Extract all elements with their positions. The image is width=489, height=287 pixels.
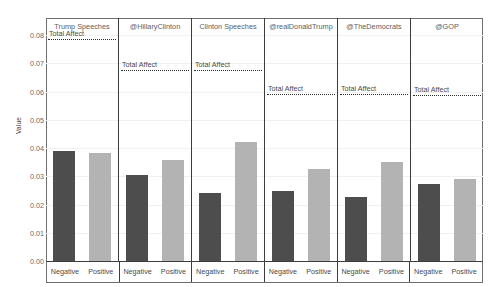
total-affect-line (267, 94, 335, 95)
x-tick-label-negative: Negative (120, 262, 156, 282)
bar-slot (82, 35, 118, 261)
x-tick-label-negative: Negative (338, 262, 374, 282)
total-affect-label: Total Affect (341, 84, 376, 94)
x-tick-label-negative: Negative (192, 262, 228, 282)
total-affect-line (194, 70, 262, 71)
panel-title: @TheDemocrats (338, 18, 410, 36)
x-tick-label-positive: Positive (374, 262, 410, 282)
panel-title: @realDonaldTrump (265, 18, 337, 36)
x-axis-panel: NegativePositive (410, 262, 482, 282)
panel-plot-body: Total Affect (411, 35, 483, 261)
y-tick-label: 0.06 (10, 87, 44, 96)
bar-group (411, 35, 483, 261)
chart-container: Value 0.080.070.060.050.040.030.020.010.… (0, 0, 489, 287)
bar-positive[interactable] (89, 153, 111, 261)
bar-slot (374, 35, 410, 261)
y-tick-label: 0.05 (10, 115, 44, 124)
bar-negative[interactable] (272, 191, 294, 261)
y-tick-label: 0.02 (10, 200, 44, 209)
total-affect-label: Total Affect (268, 84, 303, 94)
panel-plot-body: Total Affect (119, 35, 191, 261)
y-tick-label: 0.00 (10, 257, 44, 266)
bar-group (338, 35, 410, 261)
total-affect-line (340, 94, 408, 95)
total-affect-label: Total Affect (49, 29, 84, 39)
x-axis-strip: NegativePositiveNegativePositiveNegative… (46, 261, 483, 283)
total-affect-line (413, 95, 481, 96)
bar-positive[interactable] (454, 179, 476, 261)
y-tick-label: 0.03 (10, 172, 44, 181)
total-affect-line (48, 39, 116, 40)
bar-negative[interactable] (199, 193, 221, 261)
y-tick-label: 0.01 (10, 228, 44, 237)
total-affect-label: Total Affect (122, 60, 157, 70)
bar-slot (447, 35, 483, 261)
bar-positive[interactable] (381, 162, 403, 261)
x-tick-label-positive: Positive (301, 262, 337, 282)
total-affect-line (121, 70, 189, 71)
bar-positive[interactable] (235, 142, 257, 261)
x-tick-label-positive: Positive (83, 262, 119, 282)
chart-panel: @realDonaldTrumpTotal Affect (265, 18, 338, 261)
bar-group (265, 35, 337, 261)
bar-slot (46, 35, 82, 261)
x-axis-panel: NegativePositive (192, 262, 265, 282)
bar-group (46, 35, 118, 261)
y-tick-label: 0.07 (10, 59, 44, 68)
x-axis-panel: NegativePositive (338, 262, 411, 282)
panel-plot-body: Total Affect (265, 35, 337, 261)
bar-positive[interactable] (162, 160, 184, 261)
panel-title: @HillaryClinton (119, 18, 191, 36)
x-tick-label-positive: Positive (156, 262, 192, 282)
x-tick-label-positive: Positive (446, 262, 482, 282)
panel-row: Trump SpeechesTotal Affect@HillaryClinto… (46, 18, 483, 261)
chart-panel: Trump SpeechesTotal Affect (46, 18, 119, 261)
x-axis-panel: NegativePositive (47, 262, 120, 282)
chart-panel: @GOPTotal Affect (411, 18, 483, 261)
panel-title: @GOP (411, 18, 483, 36)
panel-plot-body: Total Affect (338, 35, 410, 261)
x-tick-label-negative: Negative (265, 262, 301, 282)
bar-slot (411, 35, 447, 261)
bar-slot (301, 35, 337, 261)
bar-negative[interactable] (53, 151, 75, 261)
bar-slot (338, 35, 374, 261)
bar-slot (265, 35, 301, 261)
y-axis-ticks: 0.080.070.060.050.040.030.020.010.00 (0, 0, 44, 287)
x-axis-panel: NegativePositive (120, 262, 193, 282)
y-tick-label: 0.04 (10, 144, 44, 153)
bar-negative[interactable] (345, 197, 367, 261)
x-tick-label-negative: Negative (410, 262, 446, 282)
bar-positive[interactable] (308, 169, 330, 261)
x-tick-label-positive: Positive (228, 262, 264, 282)
panel-plot-body: Total Affect (192, 35, 264, 261)
chart-panel: Clinton SpeechesTotal Affect (192, 18, 265, 261)
bar-negative[interactable] (418, 184, 440, 261)
chart-panel: @TheDemocratsTotal Affect (338, 18, 411, 261)
total-affect-label: Total Affect (195, 60, 230, 70)
total-affect-label: Total Affect (414, 85, 449, 95)
x-axis-panel: NegativePositive (265, 262, 338, 282)
panel-title: Clinton Speeches (192, 18, 264, 36)
bar-slot (155, 35, 191, 261)
bar-negative[interactable] (126, 175, 148, 261)
panel-plot-body: Total Affect (46, 35, 118, 261)
x-tick-label-negative: Negative (47, 262, 83, 282)
chart-panel: @HillaryClintonTotal Affect (119, 18, 192, 261)
bar-slot (228, 35, 264, 261)
y-tick-label: 0.08 (10, 31, 44, 40)
